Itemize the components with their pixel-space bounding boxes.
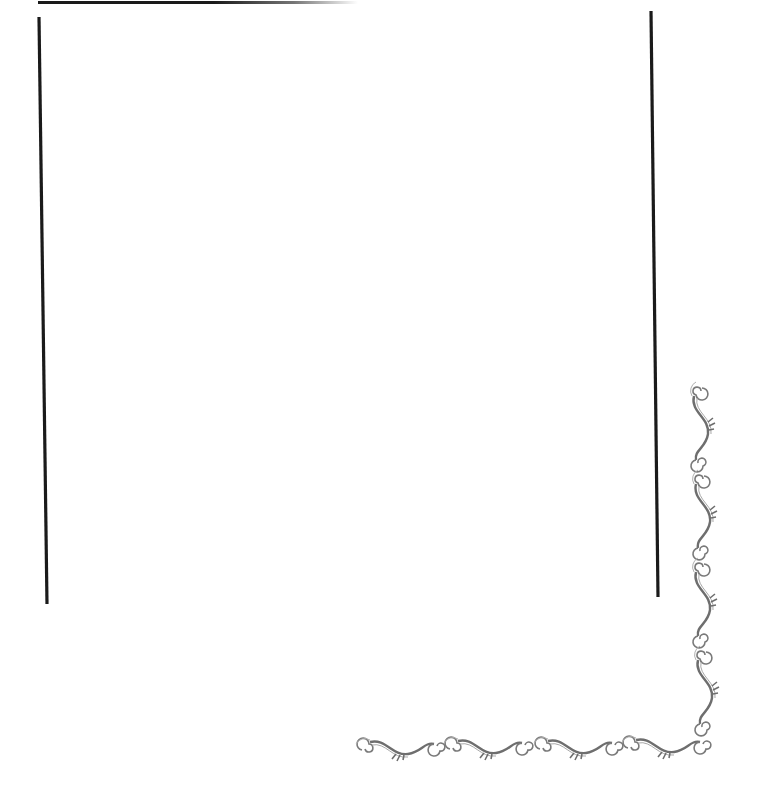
swirl-ornament-border xyxy=(0,0,759,797)
bottom-swirl-row xyxy=(356,736,711,761)
swirl-ornament xyxy=(695,646,719,736)
swirl-ornament xyxy=(534,737,623,760)
right-swirl-column xyxy=(691,382,719,736)
swirl-ornament xyxy=(691,382,715,472)
swirl-ornament xyxy=(693,558,717,648)
swirl-ornament xyxy=(622,736,711,759)
swirl-ornament xyxy=(356,738,445,761)
decorative-frame xyxy=(0,0,759,797)
swirl-ornament xyxy=(693,470,717,560)
swirl-ornament xyxy=(444,737,533,760)
